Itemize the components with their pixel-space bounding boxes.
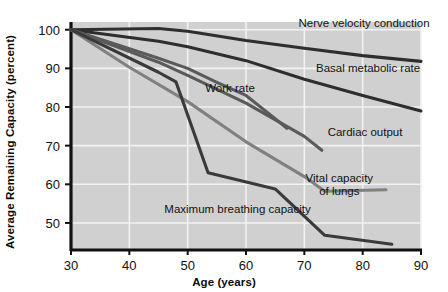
y-tick-label: 60 <box>46 177 60 192</box>
x-tick-label: 70 <box>297 258 311 273</box>
series-annotation-4: of lungs <box>319 185 360 197</box>
y-tick-label: 100 <box>38 23 60 38</box>
x-tick-label: 50 <box>180 258 194 273</box>
line-chart: 506070809010030405060708090 Nerve veloci… <box>0 0 448 292</box>
x-tick-label: 60 <box>239 258 253 273</box>
series-annotation-5: Maximum breathing capacity <box>164 203 311 215</box>
y-axis-title: Average Remaining Capacity (percent) <box>4 35 16 249</box>
y-tick-label: 50 <box>46 216 60 231</box>
x-tick-label: 80 <box>355 258 369 273</box>
series-annotation-2: Work rate <box>205 82 255 94</box>
y-tick-label: 90 <box>46 61 60 76</box>
chart-figure: 506070809010030405060708090 Nerve veloci… <box>0 0 448 292</box>
x-tick-label: 40 <box>122 258 136 273</box>
y-tick-label: 70 <box>46 139 60 154</box>
series-annotation-0: Nerve velocity conduction <box>299 17 430 29</box>
x-tick-label: 30 <box>64 258 78 273</box>
series-annotation-1: Basal metabolic rate <box>316 62 420 74</box>
series-annotation-4: Vital capacity <box>306 172 374 184</box>
x-axis-title: Age (years) <box>192 276 256 288</box>
series-annotation-3: Cardiac output <box>328 126 404 138</box>
y-tick-label: 80 <box>46 100 60 115</box>
x-tick-label: 90 <box>414 258 428 273</box>
